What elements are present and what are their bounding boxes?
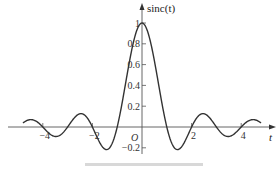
x-tick-label: −4	[39, 130, 50, 141]
y-tick-label: −0.2	[122, 142, 140, 153]
sinc-chart: −0.20.20.40.60.81 −4−224 sinc(t) t O	[0, 0, 280, 169]
y-axis-title: sinc(t)	[147, 2, 175, 15]
y-axis-arrow-icon	[140, 3, 145, 10]
x-axis-arrow-icon	[269, 125, 276, 130]
origin-label: O	[131, 132, 138, 143]
y-tick-label: 0.4	[128, 80, 141, 91]
figure-caption	[85, 163, 203, 166]
y-tick-label: 0.2	[128, 101, 141, 112]
x-tick-label: 4	[241, 130, 246, 141]
x-tick-label: 2	[191, 130, 196, 141]
x-axis-title: t	[269, 131, 273, 143]
